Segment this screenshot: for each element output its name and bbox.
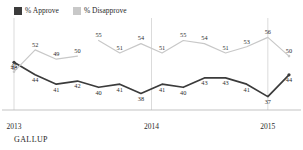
data-label: 55 <box>95 31 101 38</box>
data-label: 42 <box>74 82 80 89</box>
legend-item-disapprove: % Disapprove <box>73 7 127 15</box>
data-label: 52 <box>32 41 38 48</box>
data-label: 50 <box>74 47 80 54</box>
data-label: 41 <box>53 86 59 93</box>
data-label: 40 <box>95 89 101 96</box>
legend-label-disapprove: % Disapprove <box>84 7 127 15</box>
data-label: 54 <box>201 34 208 41</box>
square-swatch-icon <box>14 7 22 15</box>
data-label: 51 <box>159 44 165 51</box>
x-axis-tick-2013: 2013 <box>7 122 22 131</box>
x-axis-tick-2014: 2014 <box>144 122 159 131</box>
data-point-marker <box>288 55 291 58</box>
data-point-marker <box>13 70 16 73</box>
data-label: 43 <box>201 79 207 86</box>
data-label: 50 <box>286 47 292 54</box>
x-axis-tick-2015: 2015 <box>260 122 275 131</box>
data-label: 43 <box>222 79 228 86</box>
data-label: 44 <box>32 76 39 83</box>
data-label: 53 <box>244 38 250 45</box>
square-swatch-icon <box>73 7 81 15</box>
gallup-approval-chart: % Approve % Disapprove 48444142404138414… <box>0 0 303 150</box>
data-label: 56 <box>265 28 271 35</box>
source-label: GALLUP <box>14 135 48 144</box>
data-label: 51 <box>117 44 123 51</box>
series-line-disapprove <box>99 37 289 56</box>
data-label: 54 <box>138 34 145 41</box>
legend-item-approve: % Approve <box>14 7 59 15</box>
data-label: 44 <box>286 76 293 83</box>
data-label: 51 <box>222 44 228 51</box>
chart-legend: % Approve % Disapprove <box>14 5 127 17</box>
data-label: 49 <box>53 50 59 57</box>
data-label: 41 <box>159 86 165 93</box>
data-label: 55 <box>180 31 186 38</box>
plot-area: 4844414240413841404343413744455249505551… <box>0 18 303 122</box>
data-label: 40 <box>180 89 186 96</box>
data-label: 41 <box>244 86 250 93</box>
data-label: 37 <box>265 98 271 105</box>
legend-label-approve: % Approve <box>25 7 59 15</box>
x-axis: 201320142015 <box>0 122 303 136</box>
data-label: 45 <box>11 62 17 69</box>
data-label: 41 <box>117 86 123 93</box>
line-chart-svg: 4844414240413841404343413744455249505551… <box>0 18 303 122</box>
data-label: 38 <box>138 95 144 102</box>
